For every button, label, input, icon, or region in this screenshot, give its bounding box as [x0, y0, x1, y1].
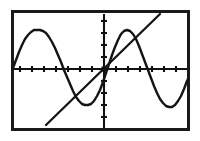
graph-canvas[interactable] — [0, 0, 200, 141]
calculator-screenshot — [0, 0, 200, 141]
origin-marker — [102, 67, 107, 72]
